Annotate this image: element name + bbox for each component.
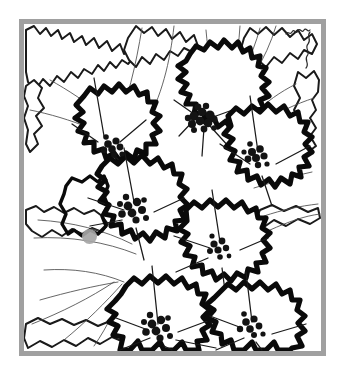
flower-illustration: [24, 24, 321, 351]
flower-center-left: [60, 148, 188, 260]
vein-15: [32, 282, 114, 324]
flower-bottom-right: [206, 272, 306, 350]
vein-12: [34, 238, 136, 254]
petal-group: [224, 104, 312, 187]
vein-14: [40, 282, 118, 300]
artwork-frame: [19, 19, 326, 356]
vein-13: [44, 270, 124, 283]
leaf-left-edge: [24, 80, 44, 152]
image-canvas: [0, 0, 343, 378]
artwork-inner-area: [24, 24, 321, 351]
flower-right: [220, 96, 312, 206]
petal-group: [75, 84, 160, 161]
leaf-top-left: [26, 26, 134, 89]
